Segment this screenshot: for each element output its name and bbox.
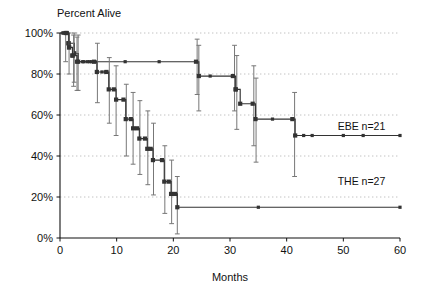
event-marker <box>75 60 79 64</box>
y-tick-label-20: 20% <box>31 191 53 203</box>
event-marker <box>67 45 71 49</box>
event-marker <box>231 74 235 78</box>
event-marker <box>65 31 69 35</box>
event-marker <box>121 98 125 102</box>
event-marker <box>124 117 128 121</box>
chart-background <box>0 0 431 290</box>
censor-marker <box>209 74 212 77</box>
y-tick-label-40: 40% <box>31 150 53 162</box>
censor-marker <box>62 31 65 34</box>
x-tick-label-20: 20 <box>167 244 179 256</box>
y-tick-label-100: 100% <box>25 27 53 39</box>
y-tick-label-80: 80% <box>31 68 53 80</box>
event-marker <box>160 158 164 162</box>
event-marker <box>162 180 166 184</box>
event-marker <box>149 147 153 151</box>
event-marker <box>175 205 179 209</box>
event-marker <box>173 192 177 196</box>
x-tick-label-0: 0 <box>57 244 63 256</box>
censor-marker <box>124 60 127 63</box>
x-tick-label-30: 30 <box>224 244 236 256</box>
event-marker <box>114 98 118 102</box>
censor-marker <box>362 134 365 137</box>
censor-marker <box>311 134 314 137</box>
event-marker <box>70 53 74 57</box>
event-marker <box>107 87 111 91</box>
survival-chart: 0%20%40%60%80%100% 0102030405060 EBE n=2… <box>0 0 431 290</box>
event-marker <box>137 136 141 140</box>
censor-marker <box>342 134 345 137</box>
event-marker <box>197 74 201 78</box>
censor-marker <box>271 118 274 121</box>
chart-title: Percent Alive <box>57 7 121 19</box>
event-marker <box>112 87 116 91</box>
event-marker <box>131 126 135 130</box>
series-label-the: THE n=27 <box>338 175 386 187</box>
censor-marker <box>158 60 161 63</box>
event-marker <box>169 192 173 196</box>
event-marker <box>253 117 257 121</box>
x-axis-label: Months <box>212 271 249 283</box>
censor-marker <box>398 134 401 137</box>
censor-marker <box>257 206 260 209</box>
censor-marker <box>90 60 93 63</box>
censor-marker <box>302 134 305 137</box>
x-tick-label-10: 10 <box>111 244 123 256</box>
x-tick-label-60: 60 <box>394 244 406 256</box>
event-marker <box>238 102 242 106</box>
event-marker <box>135 126 139 130</box>
series-label-ebe: EBE n=21 <box>338 120 386 132</box>
censor-marker <box>86 60 89 63</box>
censor-marker <box>81 60 84 63</box>
event-marker <box>129 117 133 121</box>
event-marker <box>151 158 155 162</box>
event-marker <box>251 102 255 106</box>
x-tick-label-40: 40 <box>281 244 293 256</box>
event-marker <box>167 180 171 184</box>
y-tick-label-60: 60% <box>31 109 53 121</box>
y-tick-label-0: 0% <box>37 232 53 244</box>
event-marker <box>194 60 198 64</box>
censor-marker <box>398 206 401 209</box>
chart-canvas: 0%20%40%60%80%100% 0102030405060 EBE n=2… <box>0 0 431 290</box>
event-marker <box>234 87 238 91</box>
event-marker <box>293 133 297 137</box>
x-tick-label-50: 50 <box>337 244 349 256</box>
event-marker <box>95 70 99 74</box>
censor-marker <box>104 70 107 73</box>
censor-marker <box>100 70 103 73</box>
event-marker <box>290 117 294 121</box>
event-marker <box>143 136 147 140</box>
